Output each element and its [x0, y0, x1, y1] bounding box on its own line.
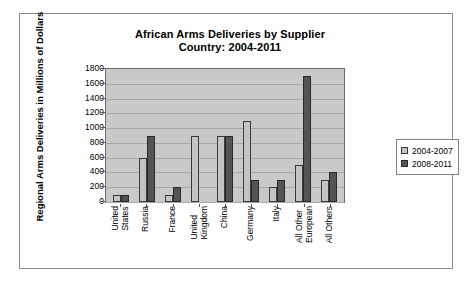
y-tick-mark — [101, 127, 105, 128]
bar[interactable] — [139, 158, 147, 202]
x-tick-label: Germany — [246, 206, 256, 241]
x-tick-label: All OtherEuropean — [294, 206, 313, 243]
bar[interactable] — [191, 136, 199, 203]
bar[interactable] — [251, 180, 259, 202]
bar[interactable] — [243, 121, 251, 202]
x-tick-label: UnitedKingdom — [189, 206, 208, 240]
chart-title-line2: Country: 2004-2011 — [179, 41, 282, 53]
bar[interactable] — [277, 180, 285, 202]
bar-group — [212, 69, 238, 202]
y-axis-title: Regional Arms Deliveries in Millions of … — [26, 56, 52, 221]
legend-swatch-icon — [401, 160, 408, 167]
y-tick-mark — [101, 142, 105, 143]
x-label-cell: China — [212, 204, 238, 279]
legend-item[interactable]: 2008-2011 — [401, 157, 453, 170]
x-label-cell: Germany — [238, 204, 264, 279]
x-axis-tick-labels: UnitedStatesRussiaFranceUnitedKingdomChi… — [105, 204, 345, 279]
x-tick-label: All Others — [325, 206, 335, 243]
bar-groups — [106, 69, 344, 202]
y-axis-tick-labels: 180016001400120010008006004002000 — [76, 62, 104, 209]
x-tick-label: Russia — [142, 206, 152, 232]
bar-group — [160, 69, 186, 202]
bar[interactable] — [147, 136, 155, 203]
bar[interactable] — [329, 172, 337, 202]
chart-title: African Arms Deliveries by Supplier Coun… — [80, 28, 380, 54]
x-label-cell: France — [159, 204, 185, 279]
bar-group — [108, 69, 134, 202]
y-tick-mark — [101, 68, 105, 69]
bar[interactable] — [303, 76, 311, 202]
chart-title-line1: African Arms Deliveries by Supplier — [135, 28, 325, 40]
x-label-cell: All OtherEuropean — [291, 204, 317, 279]
bar[interactable] — [321, 180, 329, 202]
chart-legend: 2004-20072008-2011 — [396, 139, 459, 175]
x-label-cell: Russia — [133, 204, 159, 279]
y-tick-mark — [101, 171, 105, 172]
bar[interactable] — [295, 165, 303, 202]
x-tick-label: UnitedStates — [111, 206, 130, 231]
x-label-cell: UnitedStates — [107, 204, 133, 279]
bar[interactable] — [165, 195, 173, 202]
legend-swatch-icon — [401, 147, 408, 154]
bar[interactable] — [269, 187, 277, 202]
bar[interactable] — [121, 195, 129, 202]
y-tick-mark — [101, 98, 105, 99]
y-axis-title-text: Regional Arms Deliveries in Millions of … — [34, 56, 45, 221]
bar-group — [290, 69, 316, 202]
x-label-cell: UnitedKingdom — [186, 204, 212, 279]
bar-group — [316, 69, 342, 202]
legend-item[interactable]: 2004-2007 — [401, 144, 453, 157]
bar-group — [186, 69, 212, 202]
y-tick-mark — [101, 83, 105, 84]
bar[interactable] — [225, 136, 233, 203]
x-label-cell: Italy — [264, 204, 290, 279]
plot-area — [105, 68, 345, 203]
bar-group — [264, 69, 290, 202]
bar[interactable] — [217, 136, 225, 203]
x-tick-label: China — [220, 206, 230, 228]
y-tick-mark — [101, 201, 105, 202]
gridline — [106, 202, 344, 203]
y-tick-mark — [101, 157, 105, 158]
bar[interactable] — [173, 187, 181, 202]
bar[interactable] — [113, 195, 121, 202]
legend-label: 2004-2007 — [412, 146, 453, 156]
chart-frame: African Arms Deliveries by Supplier Coun… — [19, 13, 453, 269]
x-label-cell: All Others — [317, 204, 343, 279]
y-tick-mark — [101, 112, 105, 113]
bar-group — [134, 69, 160, 202]
y-tick-mark — [101, 186, 105, 187]
bar-group — [238, 69, 264, 202]
legend-label: 2008-2011 — [412, 159, 452, 169]
x-tick-label: France — [168, 206, 178, 232]
x-tick-label: Italy — [273, 206, 283, 222]
